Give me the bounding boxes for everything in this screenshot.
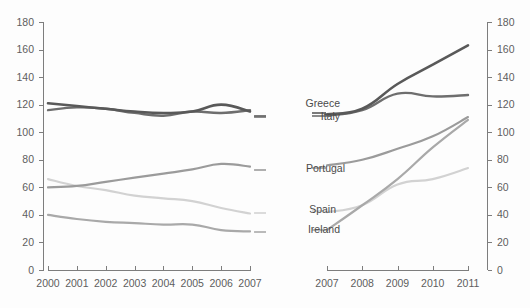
x-axis-left-tick-label: 2004 bbox=[152, 277, 176, 289]
y-axis-left-tick-label: 100 bbox=[16, 126, 34, 138]
x-axis-left-tick-label: 2006 bbox=[209, 277, 233, 289]
series-line-portugal-left bbox=[48, 164, 250, 188]
x-axis-right-tick-label: 2011 bbox=[457, 277, 480, 289]
series-line-greece-right bbox=[327, 45, 468, 114]
x-axis-right-tick-label: 2007 bbox=[315, 277, 339, 289]
y-axis-left-tick-label: 140 bbox=[16, 71, 34, 83]
x-axis-right-tick-label: 2008 bbox=[351, 277, 375, 289]
series-label-greece: Greece bbox=[306, 97, 341, 109]
y-axis-left-tick-label: 0 bbox=[28, 264, 34, 276]
x-axis-right-tick-label: 2009 bbox=[386, 277, 410, 289]
series-labels: GreeceItalyPortugalSpainIreland bbox=[254, 97, 345, 235]
y-axis-left-tick-label: 180 bbox=[16, 16, 34, 28]
y-axis-left-tick-label: 120 bbox=[16, 98, 34, 110]
series-label-spain: Spain bbox=[309, 203, 336, 215]
series-line-portugal-right bbox=[327, 117, 468, 165]
x-axis-left: 20002001200220032004200520062007 bbox=[36, 266, 262, 289]
right-panel-series bbox=[327, 45, 468, 230]
y-axis-left-tick-label: 60 bbox=[22, 181, 34, 193]
y-axis-left-tick-label: 160 bbox=[16, 43, 34, 55]
y-axis-right-tick-label: 100 bbox=[497, 126, 515, 138]
x-axis-left-tick-label: 2000 bbox=[36, 277, 60, 289]
series-line-spain-right bbox=[327, 168, 468, 212]
x-axis-left-tick-label: 2007 bbox=[238, 277, 262, 289]
y-axis-right-tick-label: 0 bbox=[497, 264, 503, 276]
series-line-spain-left bbox=[48, 179, 250, 213]
x-axis-left-tick-label: 2003 bbox=[123, 277, 147, 289]
y-axis-left: 020406080100120140160180 bbox=[16, 16, 43, 276]
series-label-italy: Italy bbox=[321, 110, 341, 122]
x-axis-left-tick-label: 2001 bbox=[65, 277, 89, 289]
y-axis-right-tick-label: 120 bbox=[497, 98, 515, 110]
y-axis-right-tick-label: 80 bbox=[497, 153, 509, 165]
series-line-ireland-left bbox=[48, 215, 250, 232]
series-label-portugal: Portugal bbox=[306, 162, 345, 174]
y-axis-right-tick-label: 160 bbox=[497, 43, 515, 55]
y-axis-right-tick-label: 60 bbox=[497, 181, 509, 193]
x-axis-right: 20072008200920102011 bbox=[315, 266, 479, 289]
y-axis-right: 020406080100120140160180 bbox=[488, 16, 515, 276]
y-axis-right-tick-label: 140 bbox=[497, 71, 515, 83]
series-label-ireland: Ireland bbox=[308, 223, 340, 235]
y-axis-left-tick-label: 40 bbox=[22, 208, 34, 220]
y-axis-right-tick-label: 40 bbox=[497, 208, 509, 220]
line-chart: 0204060801001201401601800204060801001201… bbox=[0, 0, 530, 308]
chart-container: 0204060801001201401601800204060801001201… bbox=[0, 0, 530, 308]
x-axis-left-tick-label: 2002 bbox=[94, 277, 118, 289]
y-axis-left-tick-label: 80 bbox=[22, 153, 34, 165]
x-axis-left-tick-label: 2005 bbox=[181, 277, 205, 289]
y-axis-left-tick-label: 20 bbox=[22, 236, 34, 248]
y-axis-right-tick-label: 180 bbox=[497, 16, 515, 28]
x-axis-right-tick-label: 2010 bbox=[421, 277, 445, 289]
left-panel-series bbox=[48, 103, 250, 231]
y-axis-right-tick-label: 20 bbox=[497, 236, 509, 248]
